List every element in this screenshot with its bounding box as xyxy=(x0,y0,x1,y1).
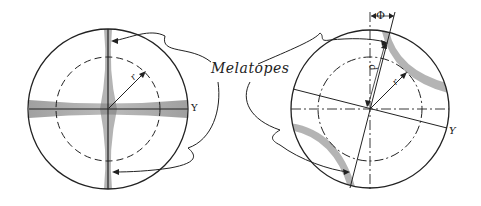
arrowhead-top-left xyxy=(111,38,118,44)
radius-line-right xyxy=(371,74,405,108)
radius-line-left xyxy=(109,73,144,108)
upper-isogyre-shading xyxy=(381,26,452,94)
arrowhead-bottom-left xyxy=(112,169,119,175)
diagram-canvas xyxy=(0,0,481,206)
right-conoscopic-figure xyxy=(246,12,452,190)
melatope-arrow-top-left xyxy=(113,33,211,62)
melatopes-label: Melatopes xyxy=(211,60,289,76)
y-axis-label-left: Y xyxy=(191,102,198,113)
melatope-arrow-bottom-left xyxy=(114,82,219,172)
phi-angle-label: Φ xyxy=(376,9,385,22)
y-axis-label-right: Y xyxy=(449,125,456,136)
